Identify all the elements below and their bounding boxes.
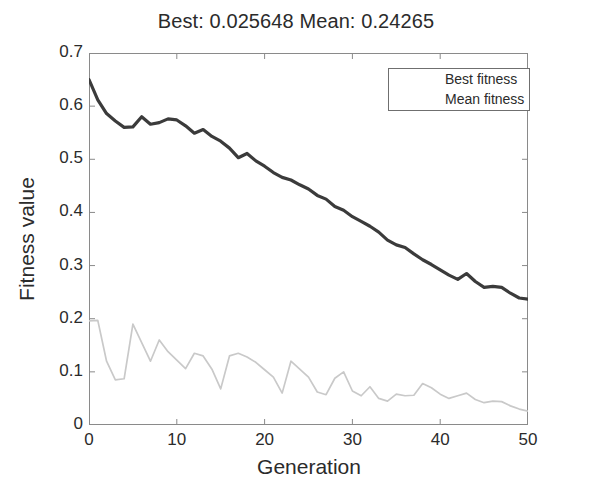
y-tick-label: 0.4 (39, 201, 83, 221)
legend-entry-best-fitness: Best fitness (389, 69, 531, 90)
y-tick-label: 0.5 (39, 148, 83, 168)
x-tick-label: 20 (239, 430, 291, 450)
chart-title: Best: 0.025648 Mean: 0.24265 (0, 10, 592, 33)
y-tick-label: 0.1 (39, 361, 83, 381)
legend-label-mean-fitness: Mean fitness (445, 91, 524, 107)
x-tick-label: 10 (151, 430, 203, 450)
y-tick-label: 0.3 (39, 255, 83, 275)
x-tick-label: 0 (63, 430, 115, 450)
ga-fitness-plot-window: Best: 0.025648 Mean: 0.24265 Fitness val… (0, 0, 592, 500)
x-tick-label: 30 (326, 430, 378, 450)
legend-box: Best fitness Mean fitness (388, 68, 530, 111)
y-axis-label: Fitness value (15, 49, 41, 429)
x-tick-label: 50 (502, 430, 554, 450)
x-axis-label: Generation (89, 455, 529, 479)
series-line-best-fitness (89, 320, 528, 411)
legend-label-best-fitness: Best fitness (445, 71, 517, 87)
series-group (89, 80, 528, 412)
y-tick-label: 0.7 (39, 42, 83, 62)
series-line-mean-fitness (89, 80, 528, 299)
y-tick-label: 0.6 (39, 95, 83, 115)
x-tick-label: 40 (414, 430, 466, 450)
legend-entry-mean-fitness: Mean fitness (389, 89, 531, 110)
y-tick-label: 0.2 (39, 308, 83, 328)
